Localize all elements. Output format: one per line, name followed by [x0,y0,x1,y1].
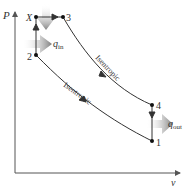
isentropic-label-upper: Isentropic [94,53,123,83]
arrowhead-x-3 [52,14,58,20]
y-axis-label: P [2,9,10,21]
arrowhead-3-4 [99,71,106,77]
state-label-3: 3 [66,12,71,23]
state-point-1 [150,139,154,143]
state-label-x: X [25,12,33,23]
state-point-2 [34,53,38,57]
state-label-1: 1 [156,137,161,148]
state-label-2: 2 [27,51,32,62]
state-point-3 [61,15,65,19]
state-points [34,15,154,143]
arrowhead-4-1 [149,112,155,118]
cycle-processes [33,14,155,141]
process-1-2-isentropic [36,55,152,141]
state-label-4: 4 [156,100,161,111]
state-point-4 [150,103,154,107]
state-point-x [34,15,38,19]
q-out-label: qout [168,118,182,131]
isentropic-label-lower: Isentropic [62,80,94,106]
x-axis-label: v [171,177,176,188]
q-in-label: qin [53,38,64,51]
pv-diagram: P v qin qout Isentropic Isentropic [0,0,185,195]
arrowhead-2-x [33,24,39,30]
